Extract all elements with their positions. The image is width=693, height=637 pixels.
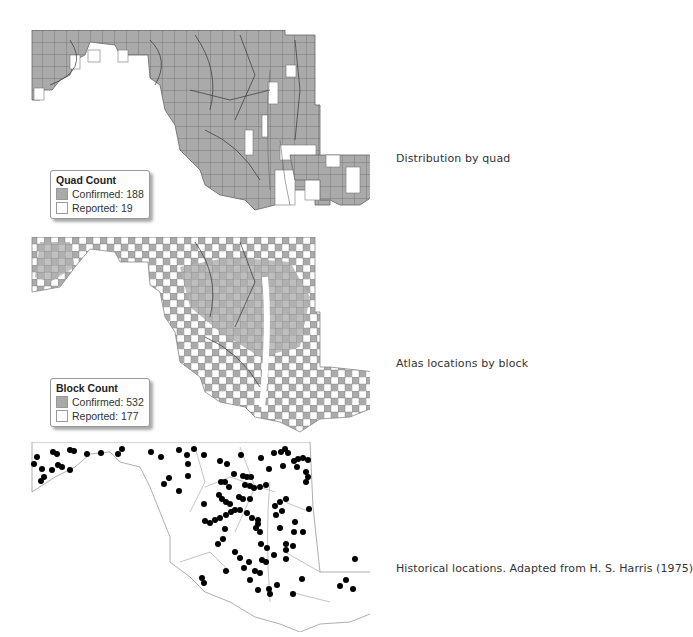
legend-label: Reported: 19 <box>72 202 133 214</box>
legend-label: Confirmed: 532 <box>72 396 144 408</box>
historical-locations-map <box>30 442 370 632</box>
reported-swatch <box>56 410 68 422</box>
quad-caption: Distribution by quad <box>396 152 510 165</box>
historical-map-panel <box>30 442 370 632</box>
legend-item-reported: Reported: 177 <box>56 409 144 423</box>
legend-label: Confirmed: 188 <box>72 188 144 200</box>
legend-item-reported: Reported: 19 <box>56 201 144 215</box>
historical-caption: Historical locations. Adapted from H. S.… <box>396 562 693 575</box>
block-caption: Atlas locations by block <box>396 357 528 370</box>
confirmed-swatch <box>56 188 68 200</box>
block-count-legend: Block Count Confirmed: 532 Reported: 177 <box>50 378 150 427</box>
legend-item-confirmed: Confirmed: 532 <box>56 395 144 409</box>
legend-title: Block Count <box>56 382 144 394</box>
confirmed-swatch <box>56 396 68 408</box>
legend-label: Reported: 177 <box>72 410 139 422</box>
quad-count-legend: Quad Count Confirmed: 188 Reported: 19 <box>50 170 150 219</box>
legend-title: Quad Count <box>56 174 144 186</box>
reported-swatch <box>56 202 68 214</box>
legend-item-confirmed: Confirmed: 188 <box>56 187 144 201</box>
